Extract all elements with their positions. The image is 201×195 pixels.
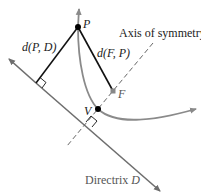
point-p-dot	[75, 24, 81, 30]
label-distance-fp: d(F, P)	[97, 46, 130, 60]
diagram-canvas: P F V d(P, D) d(F, P) Axis of symmetry D…	[0, 0, 201, 195]
parabola-diagram: P F V d(P, D) d(F, P) Axis of symmetry D…	[0, 0, 201, 195]
label-distance-pd: d(P, D)	[22, 40, 56, 54]
label-axis-of-symmetry: Axis of symmetry	[119, 26, 201, 40]
label-f: F	[117, 87, 126, 101]
segment-p-to-directrix	[36, 27, 78, 83]
label-v: V	[84, 104, 93, 118]
label-directrix-word: Directrix	[85, 173, 131, 187]
point-v-dot	[95, 106, 101, 112]
point-f-dot	[111, 89, 116, 94]
label-directrix: Directrix D	[85, 173, 140, 187]
label-directrix-letter: D	[130, 173, 140, 187]
label-p: P	[82, 17, 91, 31]
